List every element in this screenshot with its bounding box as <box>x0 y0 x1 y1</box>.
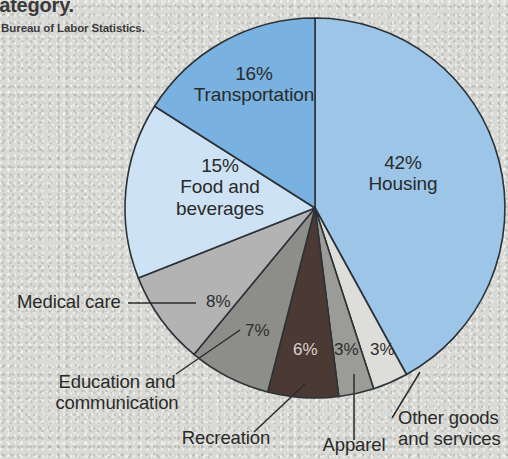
pie-label-transportation: 16% Transportation <box>174 63 334 106</box>
pie-label-apparel-pct: 3% <box>334 340 359 360</box>
callout-apparel-label: Apparel <box>302 435 406 456</box>
callout-medical-care: Medical care <box>17 292 121 313</box>
callout-other-goods-line1: Other goods <box>398 408 501 429</box>
pie-label-transportation-name: Transportation <box>174 84 334 105</box>
pie-label-medical-care-pct: 8% <box>206 292 231 312</box>
callout-apparel: Apparel <box>302 435 406 456</box>
pie-label-food-line1: Food and <box>150 176 290 197</box>
callout-other-goods-line2: and services <box>398 429 501 450</box>
pie-label-food-line2: beverages <box>150 198 290 219</box>
callout-medical-care-label: Medical care <box>17 292 121 313</box>
pie-label-recreation-pct: 6% <box>293 340 318 360</box>
callout-education-line2: communication <box>22 393 212 414</box>
pie-label-transportation-pct: 16% <box>174 63 334 84</box>
chart-page: s category. e: Bureau of Labor Statistic… <box>0 0 508 459</box>
pie-label-housing-pct: 42% <box>348 152 458 173</box>
callout-other-goods-and-services: Other goods and services <box>398 408 501 449</box>
pie-label-education-pct: 7% <box>245 321 270 341</box>
callout-recreation: Recreation <box>166 428 286 449</box>
pie-label-food-and-beverages: 15% Food and beverages <box>150 155 290 219</box>
pie-label-housing-name: Housing <box>348 173 458 194</box>
pie-label-food-pct: 15% <box>150 155 290 176</box>
pie-label-housing: 42% Housing <box>348 152 458 195</box>
callout-education-and-communication: Education and communication <box>22 372 212 413</box>
callout-education-line1: Education and <box>22 372 212 393</box>
pie-label-other-goods-pct: 3% <box>370 340 395 360</box>
callout-recreation-label: Recreation <box>166 428 286 449</box>
